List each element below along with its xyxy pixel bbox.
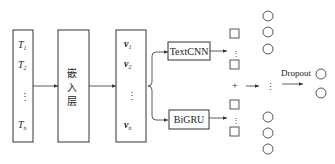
textcnn-box: TextCNN [168,42,210,60]
bigru-features: ⋮ [230,100,240,136]
neuron-circle [263,27,273,37]
feature-square [230,127,239,136]
neuron-circle [263,128,273,138]
neuron-ellipsis: ⋮ [266,82,275,92]
feature-ellipsis: ⋮ [232,49,240,58]
embedding-char-1: 嵌 [67,68,77,79]
output-neuron-circle [316,69,326,79]
bigru-box: BiGRU [169,110,209,129]
vector-ellipsis: ⋮ [127,90,137,101]
input-tokens-box: T1 T2 ⋮ Tn [13,30,33,142]
embedding-char-3: 层 [67,96,77,107]
feature-square [230,60,239,69]
embedding-layer-box: 嵌 入 层 [58,30,89,142]
feature-square [230,29,239,38]
textcnn-label: TextCNN [170,46,209,57]
arrow-to-bigru [148,86,168,120]
output-neurons [316,69,326,98]
dropout-label: Dropout [281,68,311,78]
feature-ellipsis: ⋮ [232,116,240,125]
token-ellipsis: ⋮ [20,91,30,102]
vector-box: v1 v2 ⋮ vn [116,30,146,142]
arrow-to-textcnn [148,52,168,86]
neuron-circle [263,44,273,54]
textcnn-features: ⋮ [230,29,240,69]
feature-square [230,100,239,109]
bigru-label: BiGRU [174,114,205,125]
embedding-char-2: 入 [67,82,77,93]
output-neuron-circle [316,88,326,98]
neuron-circle [263,144,273,154]
neuron-circle [263,11,273,21]
merged-neurons: ⋮ [263,11,275,154]
concat-plus-symbol: + [232,80,238,91]
model-architecture-diagram: T1 T2 ⋮ Tn 嵌 入 层 v1 v2 ⋮ vn TextCNN BiGR… [0,0,335,164]
neuron-circle [263,112,273,122]
